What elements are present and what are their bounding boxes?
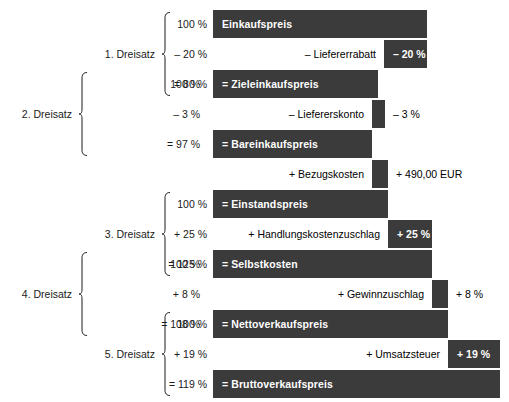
brace-4 (78, 252, 87, 336)
bar-label-bruttoverkaufspreis: = Bruttoverkaufspreis (213, 378, 333, 390)
bar-label-einstandspreis: = Einstandspreis (213, 198, 308, 210)
op-row-bezugskosten: + Bezugskosten (213, 160, 372, 188)
chip-value-umsatzsteuer: + 19 % (448, 348, 490, 360)
op-row-handlungskostenzuschlag: + Handlungskostenzuschlag (213, 220, 388, 248)
chip-liefererskonto (372, 100, 385, 128)
bar-selbstkosten: = Selbstkosten (213, 250, 432, 278)
bar-label-zieleinkaufspreis: = Zieleinkaufspreis (213, 78, 319, 90)
bar-label-einkaufspreis: Einkaufspreis (213, 18, 292, 30)
percent-p-4d-108: = 108 % (130, 315, 200, 333)
bar-nettoverkaufspreis: = Nettoverkaufspreis (213, 310, 448, 338)
percent-q-3d-100: 100 % (137, 195, 207, 213)
bar-bareinkaufspreis: = Bareinkaufspreis (213, 130, 372, 158)
op-label-liefererskonto: – Liefererskonto (289, 108, 372, 120)
percent-p-2d-3: – 3 % (130, 105, 200, 123)
op-row-liefererskonto: – Liefererskonto (213, 100, 372, 128)
outside-value-gewinnzuschlag: + 8 % (456, 280, 483, 308)
outside-value-liefererskonto: – 3 % (393, 100, 420, 128)
op-label-bezugskosten: + Bezugskosten (289, 168, 372, 180)
op-label-gewinnzuschlag: + Gewinnzuschlag (338, 288, 432, 300)
chip-bezugskosten (372, 160, 388, 188)
op-row-liefererrabatt: – Liefererrabatt (213, 40, 384, 68)
bar-label-bareinkaufspreis: = Bareinkaufspreis (213, 138, 318, 150)
chip-value-liefererrabatt: – 20 % (384, 48, 426, 60)
percent-q-1d-100: 100 % (137, 15, 207, 33)
percent-q-5d-119: = 119 % (137, 375, 207, 393)
op-row-gewinnzuschlag: + Gewinnzuschlag (213, 280, 432, 308)
op-row-umsatzsteuer: + Umsatzsteuer (213, 340, 448, 368)
bar-einkaufspreis: Einkaufspreis (213, 10, 427, 38)
chip-liefererrabatt: – 20 % (384, 40, 427, 68)
op-label-liefererrabatt: – Liefererrabatt (305, 48, 384, 60)
dreisatz-1-label: 1. Dreisatz (75, 45, 155, 63)
bar-einstandspreis: = Einstandspreis (213, 190, 388, 218)
percent-p-4d-100: 100 % (130, 255, 200, 273)
bar-zieleinkaufspreis: = Zieleinkaufspreis (213, 70, 378, 98)
bar-bruttoverkaufspreis: = Bruttoverkaufspreis (213, 370, 500, 398)
dreisatz-3-label: 3. Dreisatz (75, 225, 155, 243)
dreisatz-2-label: 2. Dreisatz (0, 105, 72, 123)
dreisatz-4-label: 4. Dreisatz (0, 285, 72, 303)
op-label-umsatzsteuer: + Umsatzsteuer (366, 348, 448, 360)
percent-p-2d-100: 100 % (130, 75, 200, 93)
dreisatz-5-label: 5. Dreisatz (75, 345, 155, 363)
percent-p-4d-8: + 8 % (130, 285, 200, 303)
brace-2 (78, 72, 87, 156)
chip-gewinnzuschlag (432, 280, 448, 308)
kalkulationsschema-diagram: Einkaufspreis– 20 %– Liefererrabatt= Zie… (0, 0, 509, 402)
op-label-handlungskostenzuschlag: + Handlungskostenzuschlag (248, 228, 388, 240)
bar-label-nettoverkaufspreis: = Nettoverkaufspreis (213, 318, 328, 330)
bar-label-selbstkosten: = Selbstkosten (213, 258, 298, 270)
percent-p-2d-97: = 97 % (130, 135, 200, 153)
chip-umsatzsteuer: + 19 % (448, 340, 500, 368)
chip-value-handlungskostenzuschlag: + 25 % (388, 228, 430, 240)
chip-handlungskostenzuschlag: + 25 % (388, 220, 432, 248)
outside-value-bezugskosten: + 490,00 EUR (396, 160, 462, 188)
